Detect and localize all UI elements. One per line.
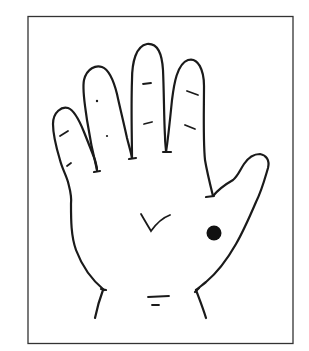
right-wrist-line [196,290,206,318]
pinky-crease [60,131,68,136]
hand-illustration: Line drawing of an open right-hand palm … [0,0,309,351]
index-finger-outline [166,60,213,196]
index-crease-upper [187,91,198,95]
wrist-crease-long [148,296,169,297]
palm-v-mark [141,214,170,231]
ring-finger-dot-lower [106,135,108,137]
thumb-base-tick [206,196,214,197]
marker-dot [207,226,222,241]
middle-crease-lower [144,122,152,124]
hand-drawing [0,0,309,351]
pinky-base-tick [94,171,100,172]
pinky-crease-lower [67,163,71,166]
middle-finger-outline [132,44,166,158]
palm-left-edge [68,182,104,290]
right-wrist-tick [195,288,199,292]
ring-finger-dot-upper [96,100,98,102]
middle-crease-upper [143,83,151,84]
left-wrist-line [95,290,103,318]
ring-finger-outline [83,66,132,170]
index-crease-lower [185,125,195,129]
